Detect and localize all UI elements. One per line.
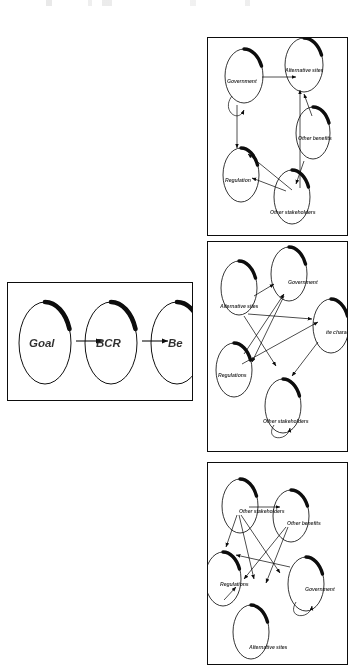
- node-label-alternative-sites: Alternative sites: [220, 304, 258, 309]
- node-other-stakeholders: [274, 170, 310, 224]
- edge-alternative-site: [248, 314, 312, 319]
- flow-label-bcr: BCR: [96, 338, 121, 350]
- edge-government-self-loop: [228, 96, 244, 116]
- panel-3: Other stakeholders Other benefits Regula…: [207, 462, 348, 665]
- node-label-alternative-sites: Alternative sites: [249, 645, 287, 650]
- edge-stakeholders-self-loop: [272, 425, 290, 438]
- node-regulations: [207, 552, 241, 606]
- node-government: [271, 247, 307, 301]
- node-label-government: Government: [227, 79, 257, 84]
- node-alternative-sites: [233, 605, 269, 659]
- edge-government-self-loop: [294, 602, 312, 616]
- panel-3-svg: [208, 463, 348, 665]
- node-government: [225, 49, 263, 103]
- figure-canvas: Goal BCR Be: [0, 0, 357, 668]
- edge-stakeholders-regulation: [252, 178, 286, 191]
- node-label-other-benefits: Other benefits: [298, 136, 332, 141]
- goal-bcr-benefit-panel: Goal BCR Be: [7, 282, 193, 401]
- node-regulation: [223, 148, 259, 202]
- flow-label-goal: Goal: [29, 338, 55, 350]
- node-alternative-sites: [285, 38, 323, 92]
- edge-site-stakeholders: [292, 342, 318, 376]
- edge-benefits-alternative-sites: [304, 94, 312, 116]
- node-label-regulations: Regulations: [218, 373, 247, 378]
- node-other-benefits: [273, 490, 309, 542]
- node-other-benefits: [296, 107, 330, 159]
- node-label-regulation: Regulation: [225, 178, 251, 183]
- node-label-alternative-sites: Alternative sites: [285, 68, 323, 73]
- scan-artifact-strip: [40, 0, 320, 6]
- node-other-stakeholders: [222, 479, 258, 533]
- node-label-regulations: Regulations: [220, 582, 249, 587]
- flow-label-benefit: Be: [168, 338, 183, 350]
- edge-regulations-alternative: [224, 587, 236, 600]
- edge-benefits-alternative: [266, 527, 288, 583]
- node-other-stakeholders: [265, 379, 301, 433]
- panel-2: Alternative sites Government ite charact…: [207, 241, 348, 452]
- node-label-other-stakeholders: Other stakeholders: [263, 419, 308, 424]
- edge-stakeholders-regulations: [226, 515, 237, 547]
- panel-1: Government Alternative sites Other benef…: [207, 37, 348, 236]
- node-label-government: Government: [305, 587, 335, 592]
- node-regulations: [216, 343, 252, 397]
- node-site-characteristics: [313, 299, 348, 353]
- edge-benefits-regulations: [244, 527, 286, 579]
- node-label-site-characteristics: ite charact: [326, 330, 348, 335]
- edge-government-regulations: [236, 555, 290, 567]
- node-government: [288, 557, 324, 611]
- edge-regulations-site: [242, 322, 318, 364]
- node-label-other-stakeholders: Other stakeholders: [270, 210, 315, 215]
- node-label-other-stakeholders: Other stakeholders: [239, 509, 284, 514]
- node-label-government: Government: [288, 280, 318, 285]
- node-label-other-benefits: Other benefits: [287, 521, 321, 526]
